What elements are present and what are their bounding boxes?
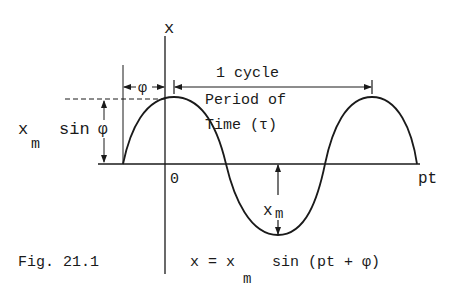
cycle-label: 1 cycle [216, 65, 279, 82]
sine-wave-diagram: φ 1 cycle Period of Time (τ) x m sin φ x… [0, 0, 456, 298]
period-label-line1: Period of [205, 92, 286, 109]
vertical-axis-label: x [164, 19, 174, 38]
equation-subscript: m [243, 271, 251, 287]
equation-rhs: sin (pt + φ) [272, 254, 380, 271]
origin-label: 0 [170, 171, 179, 188]
phase-label: φ [138, 80, 147, 97]
horizontal-axis-label: pt [418, 170, 437, 188]
offset-label-phi: φ [98, 121, 108, 139]
figure-caption: Fig. 21.1 [18, 254, 99, 271]
amplitude-label-x: x [263, 202, 273, 220]
offset-label-sin: sin [59, 120, 90, 139]
offset-label-x: x [18, 120, 28, 139]
offset-label-sub: m [31, 136, 40, 153]
amplitude-label-sub: m [275, 206, 283, 222]
period-label-line2: Time (τ) [205, 117, 277, 134]
equation-lhs: x = x [190, 254, 235, 271]
